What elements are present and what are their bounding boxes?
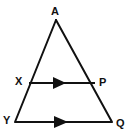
- segment-AQ: [56, 20, 112, 122]
- arrowhead-xp-icon: [53, 77, 66, 89]
- geometry-canvas: [0, 0, 130, 135]
- vertex-label-p: P: [99, 77, 106, 88]
- segment-AY: [15, 20, 56, 122]
- vertex-label-x: X: [15, 76, 22, 87]
- vertex-label-y: Y: [3, 115, 10, 126]
- vertex-label-q: Q: [116, 118, 125, 129]
- vertex-label-a: A: [51, 6, 59, 17]
- geometry-figure: A X P Y Q: [0, 0, 130, 135]
- arrowhead-yq-icon: [54, 116, 68, 128]
